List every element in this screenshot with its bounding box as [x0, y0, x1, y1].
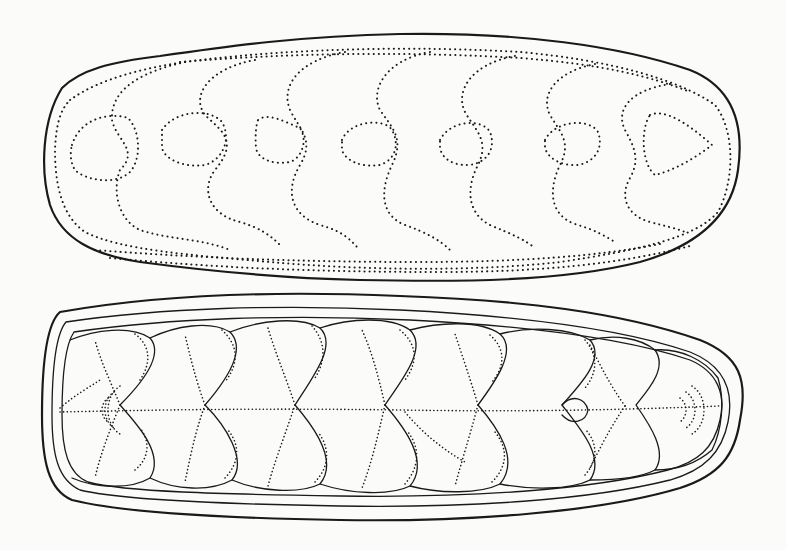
specimen-illustration	[0, 0, 786, 550]
dorsal-view	[44, 34, 740, 281]
ventral-view	[42, 294, 743, 521]
figure	[0, 0, 786, 550]
